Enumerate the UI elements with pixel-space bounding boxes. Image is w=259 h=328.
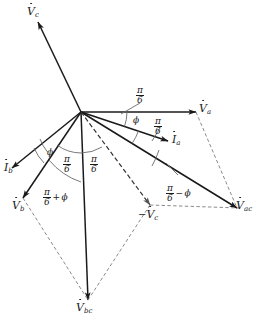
arc-pi6-upper-right bbox=[132, 131, 139, 144]
label-v-a-sub: a bbox=[207, 108, 211, 116]
arc-pi6-center-left bbox=[57, 145, 81, 153]
phi-symbol: ϕ bbox=[61, 193, 67, 202]
angle-label-pi6-minus-phi: π 6 − ϕ bbox=[166, 178, 191, 204]
angle-arc-group bbox=[34, 103, 178, 182]
phi-symbol: ϕ bbox=[184, 189, 190, 198]
expression-pi6-minus-phi: π 6 − ϕ bbox=[166, 184, 191, 204]
label-v-bc: Vbc bbox=[76, 302, 92, 313]
vector-v-c bbox=[38, 22, 81, 112]
angle-label-pi6-plus-phi: π 6 + ϕ bbox=[43, 182, 68, 208]
construction-line-va-vac bbox=[196, 112, 237, 208]
solid-phasor-group bbox=[12, 22, 237, 300]
angle-label-pi6-center-left: π 6 bbox=[63, 155, 71, 175]
angle-label-pi6-center-right: π 6 bbox=[90, 155, 98, 175]
label-v-b-symbol: V bbox=[12, 200, 20, 211]
fraction-pi-over-6: π 6 bbox=[136, 86, 144, 106]
angle-label-pi6-center-right-inner: π 6 bbox=[154, 117, 162, 137]
vector-v-bc bbox=[81, 112, 88, 300]
operator-plus: + bbox=[52, 193, 61, 202]
fraction-pi-over-6: π 6 bbox=[63, 155, 71, 175]
label-v-a-symbol: V bbox=[199, 103, 207, 114]
label-v-bc-symbol: V bbox=[76, 302, 84, 313]
phasor-canvas bbox=[0, 0, 259, 328]
phasor-diagram: Vc Va Ia Ib Vb Vac Vbc −Vc π 6 ϕ π 6 π bbox=[0, 0, 259, 328]
label-i-b-sub: b bbox=[8, 167, 12, 175]
label-v-c: Vc bbox=[27, 6, 39, 17]
fraction-pi-over-6: π 6 bbox=[43, 188, 51, 208]
label-v-b: Vb bbox=[12, 200, 24, 211]
label-v-b-sub: b bbox=[20, 205, 24, 213]
label-v-ac-symbol: V bbox=[236, 200, 244, 211]
label-v-ac-sub: ac bbox=[244, 205, 252, 213]
label-v-bc-sub: bc bbox=[84, 307, 92, 315]
construction-line-vb-vbc bbox=[23, 198, 88, 300]
fraction-pi-over-6: π 6 bbox=[166, 184, 174, 204]
label-v-a: Va bbox=[199, 103, 211, 114]
arc-pi6-far-left bbox=[34, 148, 44, 163]
label-i-b: Ib bbox=[4, 162, 13, 173]
label-neg-v-c-prefix: − bbox=[138, 209, 146, 220]
label-i-a: Ia bbox=[172, 134, 181, 145]
angle-label-phi-left: ϕ bbox=[47, 148, 53, 157]
label-neg-v-c-sub: c bbox=[154, 214, 158, 222]
construction-line-negvc-vac bbox=[150, 205, 240, 208]
operator-minus: − bbox=[175, 189, 184, 198]
label-neg-v-c: −Vc bbox=[138, 209, 158, 220]
fraction-pi-over-6: π 6 bbox=[90, 155, 98, 175]
fraction-pi-over-6: π 6 bbox=[154, 117, 162, 137]
angle-label-phi-right: ϕ bbox=[133, 116, 139, 125]
arc-pi6-center-right bbox=[81, 147, 102, 153]
label-i-a-sub: a bbox=[176, 139, 180, 147]
leader-line-pi6-minus-phi bbox=[166, 163, 178, 175]
label-v-c-sub: c bbox=[35, 11, 39, 19]
label-v-c-symbol: V bbox=[27, 6, 35, 17]
label-v-ac: Vac bbox=[236, 200, 252, 211]
angle-label-pi6-upper-right: π 6 bbox=[136, 86, 144, 106]
expression-pi6-plus-phi: π 6 + ϕ bbox=[43, 188, 68, 208]
arc-phi-right bbox=[125, 112, 128, 127]
